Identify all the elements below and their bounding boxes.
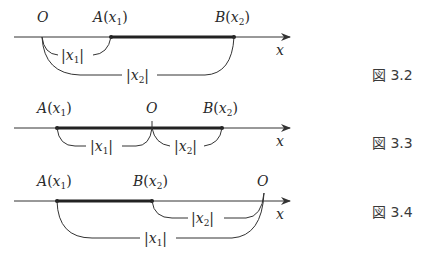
brace-x2-right bbox=[157, 37, 234, 75]
brace-x1-left bbox=[57, 128, 86, 146]
axis-x-label: x bbox=[276, 133, 284, 149]
figure-caption: 図 3.2 bbox=[372, 67, 413, 83]
brace-x1-left bbox=[57, 201, 140, 238]
point-a-label: A(x1) bbox=[35, 173, 72, 191]
distance-x1-label: |x1| bbox=[90, 138, 113, 156]
distance-x1-label: |x1| bbox=[144, 230, 167, 248]
figure-caption: 図 3.4 bbox=[372, 204, 413, 220]
point-b-label: B(x2) bbox=[202, 100, 238, 118]
figure-3-4: A(x1) B(x2) O x |x2| |x1| 図 3.4 bbox=[14, 173, 413, 248]
figure-caption: 図 3.3 bbox=[372, 135, 413, 151]
distance-x2-label: |x2| bbox=[191, 210, 214, 228]
brace-x1-right bbox=[122, 128, 152, 146]
point-a-label: A(x1) bbox=[35, 100, 72, 118]
origin-label: O bbox=[257, 173, 269, 189]
brace-x1-right bbox=[93, 37, 111, 55]
axis-x-label: x bbox=[276, 206, 284, 222]
figure-3-3: A(x1) O B(x2) x |x1| |x2| 図 3.3 bbox=[14, 100, 413, 156]
number-line-diagrams: O A(x1) B(x2) x |x1| |x2| 図 3.2 A(x1) O … bbox=[0, 0, 432, 261]
point-b-label: B(x2) bbox=[214, 9, 250, 27]
brace-x2-right bbox=[224, 193, 264, 218]
brace-x2-right bbox=[204, 128, 222, 146]
figure-3-2: O A(x1) B(x2) x |x1| |x2| 図 3.2 bbox=[14, 9, 413, 85]
brace-x1-right bbox=[176, 193, 264, 238]
axis-x-label: x bbox=[276, 42, 284, 58]
distance-x1-label: |x1| bbox=[61, 47, 84, 65]
distance-x2-label: |x2| bbox=[174, 138, 197, 156]
brace-x2-left bbox=[152, 201, 188, 218]
point-a-label: A(x1) bbox=[91, 9, 128, 27]
brace-x2-left bbox=[152, 128, 170, 146]
distance-x2-label: |x2| bbox=[126, 67, 149, 85]
point-b-label: B(x2) bbox=[132, 173, 168, 191]
origin-label: O bbox=[37, 9, 49, 25]
origin-label: O bbox=[146, 100, 158, 116]
